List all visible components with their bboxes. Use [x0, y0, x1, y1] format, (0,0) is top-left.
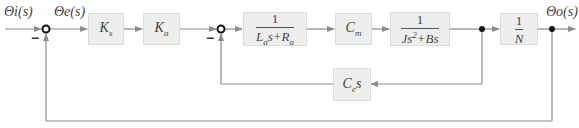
block-ka-label: Ka: [155, 20, 169, 38]
block-cm: Cm: [335, 13, 372, 45]
block-ks: Ks: [88, 13, 124, 45]
block-gear-ratio: 1 N: [500, 13, 538, 45]
input-signal-label: Θi(s): [4, 4, 33, 20]
mechanical-fraction: 1 Js2+Bs: [401, 13, 438, 45]
block-back-emf: Ces: [333, 68, 371, 101]
output-signal-label: Θo(s): [546, 4, 578, 20]
block-armature: 1 Las+Ra: [243, 12, 307, 46]
sum2-minus-sign: −: [206, 30, 214, 46]
block-cm-label: Cm: [346, 20, 362, 38]
branch-node-output: [549, 26, 555, 32]
branch-node-speed: [479, 26, 485, 32]
sum1-minus-sign: −: [31, 30, 39, 46]
summing-junction-2: [218, 26, 225, 33]
block-back-emf-label: Ces: [343, 76, 362, 94]
armature-fraction: 1 Las+Ra: [256, 12, 294, 47]
gear-fraction: 1 N: [515, 14, 524, 45]
error-signal-label: Θe(s): [54, 4, 85, 20]
block-mechanical: 1 Js2+Bs: [390, 12, 450, 46]
summing-junction-1: [43, 26, 50, 33]
block-ka: Ka: [143, 13, 180, 45]
block-ks-label: Ks: [100, 20, 113, 38]
